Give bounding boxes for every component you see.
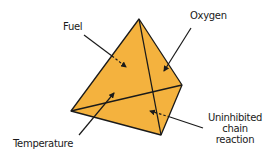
oxygen-label: Oxygen [190, 10, 227, 21]
chain-reaction-label-line2: chain [205, 123, 265, 134]
fire-tetrahedron-diagram: Fuel Oxygen Temperature Uninhibited chai… [0, 0, 277, 159]
temperature-label: Temperature [13, 138, 73, 149]
chain-reaction-label: Uninhibited chain reaction [205, 112, 265, 145]
tetrahedron-body [71, 19, 182, 135]
chain-reaction-label-line1: Uninhibited [205, 112, 265, 123]
chain-reaction-label-line3: reaction [205, 134, 265, 145]
fuel-label: Fuel [63, 21, 82, 32]
oxygen-arrow [164, 28, 191, 71]
